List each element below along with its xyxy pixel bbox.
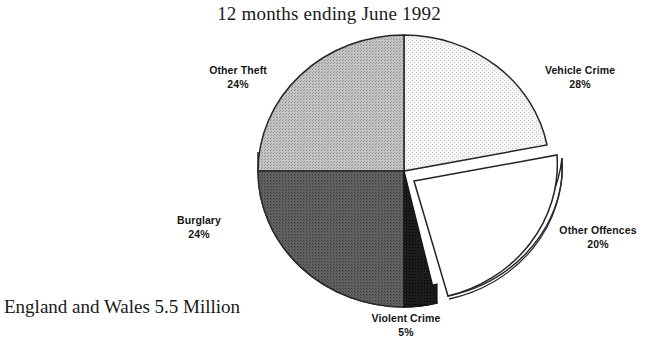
pie-chart-graphic bbox=[0, 0, 658, 344]
slice-top-vehicle-crime bbox=[404, 35, 547, 171]
slice-top-other-theft bbox=[258, 35, 404, 171]
slice-label-violent-crime-name: Violent Crime bbox=[372, 312, 441, 324]
slice-label-vehicle-crime-value: 28% bbox=[518, 78, 642, 92]
chart-footnote: England and Wales 5.5 Million bbox=[4, 296, 240, 318]
slice-top-burglary bbox=[258, 171, 404, 307]
slice-label-violent-crime: Violent Crime 5% bbox=[342, 312, 470, 340]
slice-label-other-theft-value: 24% bbox=[178, 78, 298, 92]
slice-label-burglary: Burglary 24% bbox=[144, 214, 254, 242]
slice-label-other-offences-name: Other Offences bbox=[559, 224, 636, 236]
slice-label-other-offences-value: 20% bbox=[538, 238, 658, 252]
slice-label-vehicle-crime: Vehicle Crime 28% bbox=[518, 64, 642, 92]
slice-label-vehicle-crime-name: Vehicle Crime bbox=[545, 64, 615, 76]
slice-label-other-theft-name: Other Theft bbox=[209, 64, 267, 76]
slice-label-other-theft: Other Theft 24% bbox=[178, 64, 298, 92]
pie-chart-figure: 12 months ending June 1992 bbox=[0, 0, 658, 344]
slice-label-burglary-name: Burglary bbox=[177, 214, 221, 226]
slice-label-burglary-value: 24% bbox=[144, 228, 254, 242]
slice-label-other-offences: Other Offences 20% bbox=[538, 224, 658, 252]
slice-top-other-offences bbox=[414, 155, 557, 296]
slice-label-violent-crime-value: 5% bbox=[342, 326, 470, 340]
